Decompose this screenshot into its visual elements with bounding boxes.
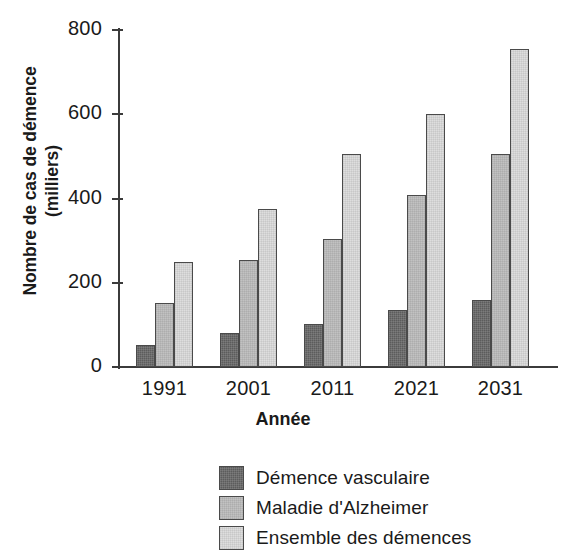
legend-label: Démence vasculaire: [256, 467, 430, 489]
legend-item: Démence vasculaire: [219, 464, 549, 492]
legend-swatch-1: [219, 496, 244, 520]
bar-2031-series0: [472, 300, 491, 367]
y-tick-label: 600: [50, 101, 102, 124]
bar-2011-series2: [342, 154, 361, 367]
x-tick-label-2021: 2021: [377, 377, 457, 400]
x-tick-label-2031: 2031: [461, 377, 541, 400]
y-tick-label: 0: [50, 354, 102, 377]
legend-swatch-2: [219, 526, 244, 550]
bar-2001-series2: [258, 209, 277, 367]
bar-2001-series1: [239, 260, 258, 367]
bar-2001-series0: [220, 333, 239, 367]
bar-chart: Nombre de cas de démence (milliers) 0200…: [0, 0, 566, 559]
x-tick-label-1991: 1991: [125, 377, 205, 400]
bar-2021-series2: [426, 114, 445, 367]
bar-2031-series2: [510, 49, 529, 367]
bar-2011-series0: [304, 324, 323, 367]
legend: Démence vasculaireMaladie d'AlzheimerEns…: [219, 464, 549, 554]
legend-item: Ensemble des démences: [219, 524, 549, 552]
x-tick-label-2011: 2011: [293, 377, 373, 400]
legend-label: Ensemble des démences: [256, 527, 471, 549]
bar-1991-series1: [155, 303, 174, 367]
y-axis-title-line2: (milliers): [42, 11, 64, 351]
bar-2011-series1: [323, 239, 342, 367]
x-axis-title: Année: [0, 409, 566, 430]
legend-label: Maladie d'Alzheimer: [256, 497, 428, 519]
y-axis-title-line1: Nombre de cas de démence: [20, 11, 42, 351]
bar-2021-series1: [407, 195, 426, 367]
legend-swatch-0: [219, 466, 244, 490]
bar-2031-series1: [491, 154, 510, 367]
bar-1991-series2: [174, 262, 193, 367]
bar-2021-series0: [388, 310, 407, 367]
legend-item: Maladie d'Alzheimer: [219, 494, 549, 522]
bar-1991-series0: [136, 345, 155, 367]
plot-area: [118, 30, 558, 367]
y-tick-label: 400: [50, 186, 102, 209]
y-tick-label: 800: [50, 17, 102, 40]
y-tick-label: 200: [50, 270, 102, 293]
x-tick-label-2001: 2001: [209, 377, 289, 400]
